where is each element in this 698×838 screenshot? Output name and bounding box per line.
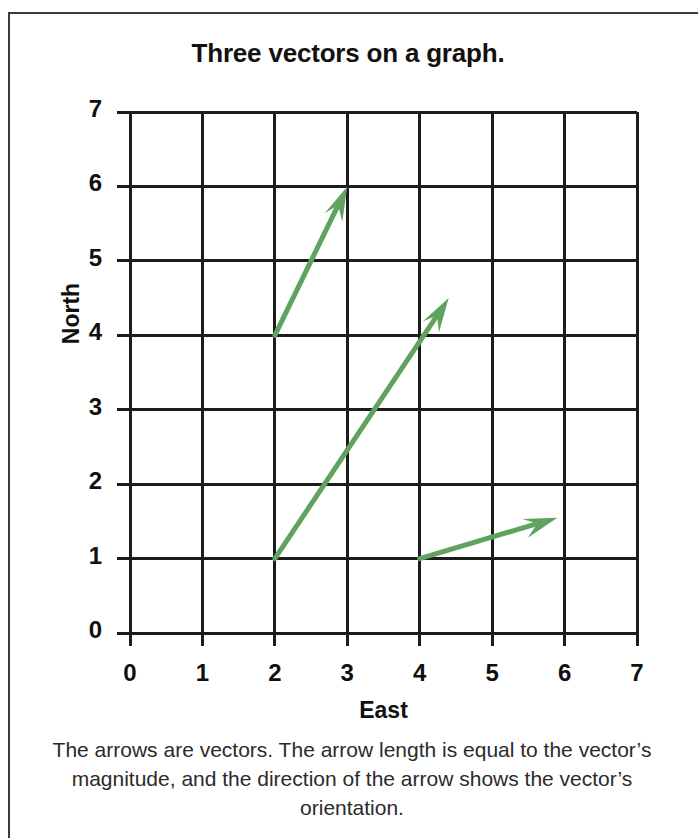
x-axis-tick [563,633,566,646]
x-axis-tick-label: 6 [543,659,587,687]
figure-border-left [8,12,10,838]
y-axis-title: North [58,234,85,394]
y-axis-tick [117,632,130,635]
gridline-vertical [563,112,566,633]
x-axis-tick [129,633,132,646]
vector-shaft [275,206,338,335]
y-axis-tick [117,557,130,560]
y-axis-tick-label: 7 [58,95,102,123]
vector-graph-figure: Three vectors on a graph. 01234567012345… [0,0,698,838]
y-axis-tick [117,111,130,114]
gridline-horizontal [130,259,637,262]
x-axis-tick [491,633,494,646]
y-axis-tick-label: 2 [58,467,102,495]
x-axis-tick-label: 2 [253,659,297,687]
x-axis-tick [201,633,204,646]
x-axis-tick-label: 3 [325,659,369,687]
vector-arrowhead [522,518,557,538]
x-axis-tick-label: 0 [108,659,152,687]
vector-arrowhead [423,298,449,332]
y-axis-tick-label: 3 [58,393,102,421]
plot-area: 0123456701234567 [130,112,637,633]
y-axis-tick [117,259,130,262]
gridline-vertical [346,112,349,633]
gridline-horizontal [130,111,637,114]
y-axis-tick-label: 6 [58,169,102,197]
x-axis-tick-label: 5 [470,659,514,687]
gridline-horizontal [130,557,637,560]
x-axis-tick-label: 1 [180,659,224,687]
x-axis-tick-label: 7 [615,659,659,687]
vector-3 [420,518,558,559]
vector-shaft [275,316,437,558]
gridline-horizontal [130,408,637,411]
gridline-horizontal [130,483,637,486]
vector-2 [275,298,449,559]
y-axis-tick-label: 0 [58,616,102,644]
x-axis-tick-label: 4 [398,659,442,687]
figure-caption: The arrows are vectors. The arrow length… [22,735,682,822]
gridline-vertical [636,112,639,633]
gridline-vertical [201,112,204,633]
gridline-vertical [491,112,494,633]
y-axis-tick [117,483,130,486]
x-axis-tick [418,633,421,646]
gridline-vertical [129,112,132,633]
y-axis-tick [117,334,130,337]
figure-border-top [8,12,698,14]
vector-arrowhead [325,186,348,221]
x-axis-tick [636,633,639,646]
gridline-vertical [418,112,421,633]
vector-shaft [420,524,537,559]
y-axis-tick [117,408,130,411]
gridline-vertical [273,112,276,633]
x-axis-tick [346,633,349,646]
gridline-horizontal [130,334,637,337]
x-axis-title: East [130,697,637,724]
y-axis-tick-label: 1 [58,542,102,570]
chart-title: Three vectors on a graph. [10,38,686,69]
x-axis-tick [273,633,276,646]
y-axis-tick [117,185,130,188]
gridline-horizontal [130,185,637,188]
gridline-horizontal [130,632,637,635]
vector-arrows [130,112,637,633]
